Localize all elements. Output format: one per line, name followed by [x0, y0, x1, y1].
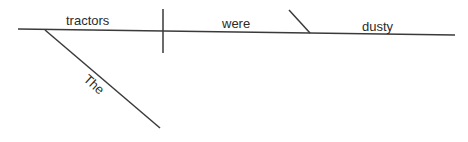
modifier-diagonal-line: [45, 30, 160, 128]
predicate-adjective-word-label: dusty: [362, 20, 393, 33]
subject-word-label: tractors: [66, 14, 109, 27]
predicate-adjective-slant-line: [289, 10, 310, 33]
sentence-diagram: tractors were dusty The: [0, 0, 468, 142]
verb-word-label: were: [222, 17, 250, 30]
